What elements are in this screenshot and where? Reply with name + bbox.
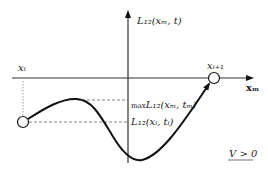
left-point-label: xᵢ — [18, 63, 26, 73]
y-axis-label: L₁₂(xₘ, t) — [137, 16, 182, 26]
diagram-canvas — [0, 0, 268, 181]
right-point-label: xᵢ₊₁ — [207, 61, 224, 71]
x-axis-label: xₘ — [246, 83, 259, 93]
max-label-prefix: max — [131, 102, 146, 110]
max-label: maxL₁₂(xₘ, tₘ) — [131, 95, 197, 111]
max-label-value: L₁₂(xₘ, tₘ) — [146, 99, 197, 110]
end-point-circle — [209, 73, 220, 84]
start-value-label: L₁₂(xᵢ, tᵢ) — [131, 117, 174, 127]
condition-label: V > 0 — [229, 149, 257, 159]
start-point-circle — [18, 117, 29, 128]
